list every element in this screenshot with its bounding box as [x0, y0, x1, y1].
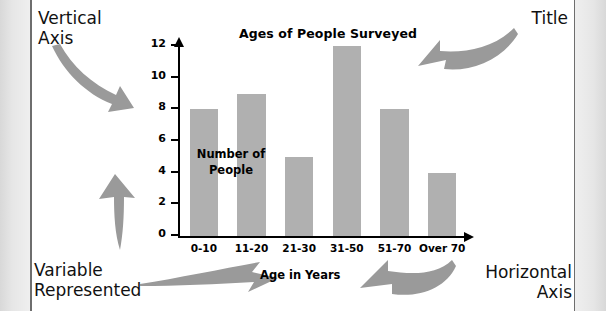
plot-area: 024681012 — [178, 46, 464, 238]
bar-series — [180, 46, 466, 236]
y-tick-label: 6 — [158, 132, 166, 145]
y-tick: 10 — [171, 76, 178, 78]
y-tick: 6 — [171, 139, 178, 141]
x-axis-label: 21-30 — [275, 242, 323, 254]
y-tick: 0 — [171, 234, 178, 236]
arrow-number-of-people — [94, 172, 136, 252]
y-tick-label: 12 — [151, 37, 166, 50]
bar — [333, 46, 362, 236]
y-tick-label: 2 — [158, 195, 166, 208]
x-axis-label: 51-70 — [371, 242, 419, 254]
y-tick: 12 — [171, 44, 178, 46]
y-tick: 2 — [171, 202, 178, 204]
y-tick-label: 8 — [158, 100, 166, 113]
x-axis-label: Over 70 — [418, 242, 466, 254]
page-edge-left — [0, 0, 30, 311]
figure-page: Vertical Axis Title Variable Represented… — [0, 0, 606, 311]
bar — [380, 109, 409, 236]
bar — [285, 157, 314, 236]
callout-title: Title — [532, 8, 568, 28]
x-axis-label: 11-20 — [228, 242, 276, 254]
y-axis-title: Number of People — [194, 146, 268, 178]
figure-sheet: Vertical Axis Title Variable Represented… — [32, 0, 574, 311]
x-axis-labels: 0-1011-2021-3031-5051-70Over 70 — [180, 242, 466, 258]
y-tick-label: 10 — [151, 69, 166, 82]
chart-title: Ages of People Surveyed — [178, 26, 478, 41]
page-edge-right — [575, 0, 606, 311]
bar — [428, 173, 457, 236]
x-axis-label: 31-50 — [323, 242, 371, 254]
y-tick: 4 — [171, 171, 178, 173]
bar-chart: Ages of People Surveyed 024681012 0-1011… — [140, 26, 480, 271]
y-tick-label: 4 — [158, 164, 166, 177]
arrow-vertical-axis — [50, 42, 140, 120]
callout-variable-represented: Variable Represented — [34, 260, 141, 300]
x-axis-label: 0-10 — [180, 242, 228, 254]
x-axis-title: Age in Years — [260, 268, 340, 282]
x-axis-line — [178, 236, 470, 238]
callout-horizontal-axis: Horizontal Axis — [485, 262, 572, 302]
y-tick-label: 0 — [158, 227, 166, 240]
y-tick: 8 — [171, 107, 178, 109]
